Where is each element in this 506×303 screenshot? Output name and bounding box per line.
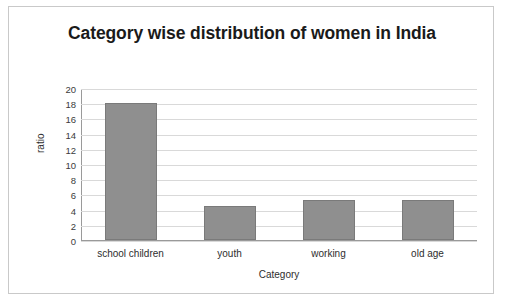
y-axis-tick-label: 6 bbox=[71, 190, 76, 201]
x-axis-tick-label: old age bbox=[411, 248, 444, 259]
y-axis-tick-label: 12 bbox=[65, 144, 76, 155]
x-axis-tick-label: school children bbox=[97, 248, 164, 259]
x-axis-title: Category bbox=[81, 269, 477, 280]
bar bbox=[105, 103, 157, 240]
y-axis-tick-label: 2 bbox=[71, 220, 76, 231]
y-axis-title: ratio bbox=[35, 134, 46, 153]
y-axis-tick-label: 8 bbox=[71, 175, 76, 186]
y-axis-tick-label: 20 bbox=[65, 84, 76, 95]
y-axis-tick-label: 14 bbox=[65, 129, 76, 140]
y-axis-tick-label: 10 bbox=[65, 160, 76, 171]
chart-title: Category wise distribution of women in I… bbox=[49, 23, 455, 45]
bar bbox=[204, 206, 256, 240]
x-axis-tick-label: youth bbox=[217, 248, 241, 259]
y-axis-tick-label: 4 bbox=[71, 205, 76, 216]
plot-area: 02468101214161820school childrenyouthwor… bbox=[81, 89, 477, 241]
chart-container: Category wise distribution of women in I… bbox=[8, 6, 494, 294]
gridline bbox=[81, 89, 477, 90]
y-axis-tick-label: 0 bbox=[71, 236, 76, 247]
gridline bbox=[81, 241, 477, 242]
bar bbox=[303, 200, 355, 240]
y-axis-tick-label: 16 bbox=[65, 114, 76, 125]
y-axis-tick-label: 18 bbox=[65, 99, 76, 110]
x-axis-tick-label: working bbox=[311, 248, 345, 259]
bar bbox=[402, 200, 454, 240]
